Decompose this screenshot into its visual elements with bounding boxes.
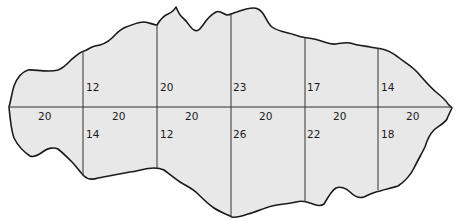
offset-above-label: 12 — [86, 81, 99, 93]
offset-below-label: 14 — [86, 128, 100, 140]
offset-above-label: 14 — [381, 81, 395, 93]
baseline-segment-label: 20 — [333, 110, 346, 122]
baseline-segment-label: 20 — [406, 110, 419, 122]
baseline-segment-label: 20 — [259, 110, 272, 122]
baseline-segment-label: 20 — [185, 110, 198, 122]
offset-below-label: 12 — [160, 128, 173, 140]
baseline-segment-label: 20 — [38, 110, 51, 122]
offset-below-label: 26 — [233, 128, 247, 140]
offset-above-label: 17 — [307, 81, 320, 93]
offset-below-label: 18 — [381, 128, 394, 140]
survey-diagram: 20 20 20 20 20 20 12 20 23 17 14 14 12 2… — [0, 0, 457, 221]
offset-above-label: 20 — [160, 81, 173, 93]
offset-above-label: 23 — [233, 81, 246, 93]
offset-below-label: 22 — [307, 128, 320, 140]
baseline-segment-label: 20 — [112, 110, 125, 122]
